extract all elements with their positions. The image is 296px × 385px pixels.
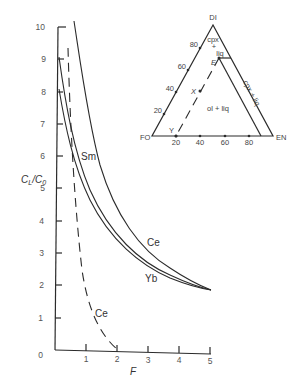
x-tick-labels: 1 2 3 4 5 xyxy=(84,354,213,366)
left-tick-20: 20 xyxy=(154,106,162,115)
y-axis xyxy=(55,27,66,350)
label-ce: Ce xyxy=(147,237,160,248)
y-tick-9: 9 xyxy=(41,54,46,64)
field-liq-label: liq xyxy=(216,49,224,58)
y-tick-3: 3 xyxy=(39,248,44,258)
y-tick-6: 6 xyxy=(40,151,45,161)
ternary-inset: DI FO EN 80 60 40 20 20 40 60 80 cpx + l… xyxy=(140,13,286,147)
y-axis-label: CL/C0 xyxy=(21,174,46,186)
left-tick-80: 80 xyxy=(190,40,198,49)
y-tick-1: 1 xyxy=(38,313,43,323)
x-tick-2: 2 xyxy=(115,354,120,364)
y-tick-4: 4 xyxy=(39,216,44,226)
x-tick-1: 1 xyxy=(84,354,89,364)
label-yb: Yb xyxy=(145,273,158,284)
figure: 10 9 8 7 6 5 4 3 2 1 0 1 2 3 4 5 F CL/C0… xyxy=(0,0,296,385)
label-y: Y xyxy=(169,126,174,135)
y-label-slash-c: /C xyxy=(31,174,43,185)
bottom-tick-80: 80 xyxy=(245,138,253,147)
vertex-di: DI xyxy=(209,13,217,22)
curve-yb xyxy=(59,89,211,290)
label-ce-dashed: Ce xyxy=(95,308,108,319)
left-tick-60: 60 xyxy=(178,62,186,71)
label-sm: Sm xyxy=(81,151,96,162)
left-tick-40: 40 xyxy=(166,84,174,93)
curve-sm xyxy=(59,57,211,290)
field-cpx-liq-side: cpx + liq xyxy=(241,79,262,108)
y-tick-2: 2 xyxy=(39,280,44,290)
y-tick-labels: 10 9 8 7 6 5 4 3 2 1 0 xyxy=(36,22,47,360)
y-tick-8: 8 xyxy=(41,87,46,97)
y-tick-10: 10 xyxy=(36,22,46,32)
x-axis-label: F xyxy=(130,366,137,377)
y-tick-7: 7 xyxy=(40,119,45,129)
origin-label: 0 xyxy=(38,350,43,360)
x-tick-5: 5 xyxy=(208,356,213,366)
field-ol-liq: ol + liq xyxy=(207,104,229,113)
y-label-sub-0: 0 xyxy=(42,179,46,186)
bottom-tick-40: 40 xyxy=(196,138,204,147)
x-tick-4: 4 xyxy=(177,355,182,365)
bottom-tick-20: 20 xyxy=(172,138,180,147)
point-x xyxy=(199,90,202,93)
vertex-en: EN xyxy=(276,133,286,142)
bottom-tick-60: 60 xyxy=(221,138,229,147)
x-tick-3: 3 xyxy=(146,355,151,365)
label-x: X xyxy=(190,87,197,96)
x-axis xyxy=(55,344,211,354)
vertex-fo: FO xyxy=(140,133,151,142)
curve-ce-dashed xyxy=(68,48,118,350)
